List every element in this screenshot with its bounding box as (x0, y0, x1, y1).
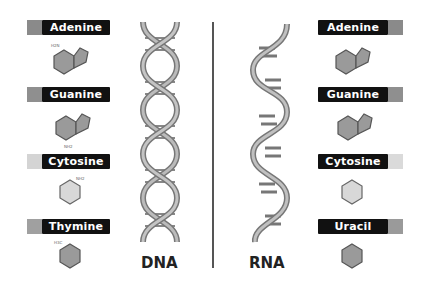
dna-base-thymine: Thymine (27, 219, 110, 234)
svg-text:H3C: H3C (54, 240, 63, 245)
rna-base-uracil: Uracil (318, 219, 403, 234)
rna-title: RNA (249, 254, 285, 272)
uracil-structure-icon (330, 236, 374, 278)
guanine-label: Guanine (42, 87, 110, 102)
adenine-structure-icon (330, 38, 380, 80)
uracil-label: Uracil (318, 219, 388, 234)
guanine-color-swatch (388, 87, 403, 102)
thymine-color-swatch (27, 219, 42, 234)
rna-base-adenine: Adenine (318, 20, 403, 35)
thymine-label: Thymine (42, 219, 110, 234)
rna-base-cytosine: Cytosine (318, 154, 403, 169)
adenine-label: Adenine (42, 20, 110, 35)
guanine-structure-icon: NH2 (48, 104, 98, 150)
thymine-structure-icon: H3C (48, 236, 92, 278)
dna-title: DNA (141, 254, 178, 272)
rna-single-strand-icon (245, 20, 295, 245)
cytosine-color-swatch (388, 154, 403, 169)
cytosine-color-swatch (27, 154, 42, 169)
adenine-color-swatch (27, 20, 42, 35)
guanine-label: Guanine (318, 87, 388, 102)
rna-base-guanine: Guanine (318, 87, 403, 102)
dna-base-guanine: Guanine (27, 87, 110, 102)
adenine-structure-icon: H2N (48, 38, 98, 80)
center-divider (212, 22, 214, 268)
uracil-color-swatch (388, 219, 403, 234)
cytosine-structure-icon: NH2 (48, 172, 92, 214)
adenine-label: Adenine (318, 20, 388, 35)
svg-text:NH2: NH2 (64, 144, 73, 149)
cytosine-label: Cytosine (318, 154, 388, 169)
dna-base-cytosine: Cytosine (27, 154, 110, 169)
svg-text:H2N: H2N (51, 43, 60, 48)
svg-text:NH2: NH2 (76, 176, 85, 181)
dna-double-helix-icon (135, 20, 185, 245)
guanine-structure-icon (330, 104, 380, 150)
dna-base-adenine: Adenine (27, 20, 110, 35)
cytosine-structure-icon (330, 172, 374, 214)
adenine-color-swatch (388, 20, 403, 35)
cytosine-label: Cytosine (42, 154, 110, 169)
guanine-color-swatch (27, 87, 42, 102)
